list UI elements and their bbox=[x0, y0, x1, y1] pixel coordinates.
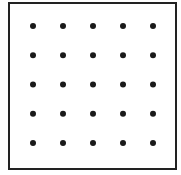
grid-dot bbox=[90, 111, 96, 117]
grid-dot bbox=[60, 82, 66, 88]
dot-grid bbox=[0, 0, 181, 175]
grid-dot bbox=[150, 52, 156, 58]
grid-dot bbox=[60, 52, 66, 58]
grid-dot bbox=[30, 52, 36, 58]
grid-dot bbox=[120, 111, 126, 117]
grid-dot bbox=[150, 23, 156, 29]
grid-dot bbox=[30, 111, 36, 117]
grid-dot bbox=[150, 82, 156, 88]
grid-dot bbox=[120, 52, 126, 58]
grid-dot bbox=[120, 23, 126, 29]
grid-dot bbox=[120, 140, 126, 146]
grid-dot bbox=[150, 140, 156, 146]
grid-dot bbox=[60, 111, 66, 117]
grid-dot bbox=[120, 82, 126, 88]
grid-dot bbox=[150, 111, 156, 117]
grid-dot bbox=[90, 23, 96, 29]
grid-dot bbox=[90, 52, 96, 58]
grid-dot bbox=[30, 23, 36, 29]
grid-dot bbox=[30, 140, 36, 146]
grid-dot bbox=[90, 140, 96, 146]
grid-dot bbox=[30, 82, 36, 88]
grid-dot bbox=[60, 23, 66, 29]
grid-dot bbox=[60, 140, 66, 146]
grid-dot bbox=[90, 82, 96, 88]
